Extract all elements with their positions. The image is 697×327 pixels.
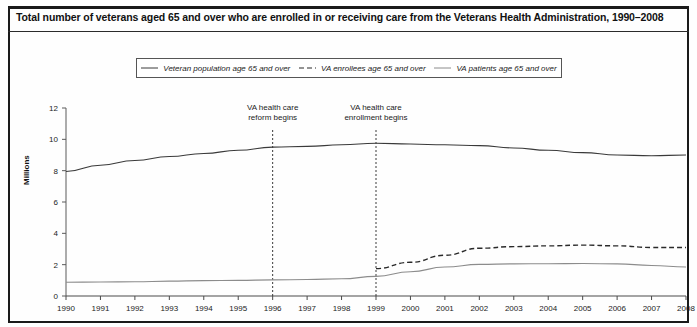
y-tick-label: 10	[49, 135, 58, 144]
x-tick-label: 2000	[402, 304, 420, 313]
annotation-label-line2: reform begins	[248, 113, 297, 122]
y-tick-label: 8	[54, 167, 59, 176]
y-tick-label: 6	[54, 198, 59, 207]
y-tick-label: 12	[49, 104, 58, 113]
x-tick-label: 2002	[470, 304, 488, 313]
x-tick-label: 1997	[298, 304, 316, 313]
x-tick-label: 2007	[643, 304, 661, 313]
x-tick-label: 1998	[333, 304, 351, 313]
annotation-label-line1: VA health care	[247, 103, 299, 112]
x-tick-label: 2005	[574, 304, 592, 313]
chart-figure: Total number of veterans aged 65 and ove…	[0, 0, 697, 327]
x-tick-label: 1995	[229, 304, 247, 313]
x-tick-label: 2001	[436, 304, 454, 313]
x-tick-label: 1994	[195, 304, 213, 313]
y-tick-label: 2	[54, 261, 59, 270]
y-tick-label: 4	[54, 229, 59, 238]
x-tick-label: 2008	[677, 304, 695, 313]
x-tick-label: 1996	[264, 304, 282, 313]
chart-plot-area: 0246810121990199119921993199419951996199…	[0, 0, 697, 327]
x-tick-label: 2003	[505, 304, 523, 313]
x-tick-label: 1992	[126, 304, 144, 313]
x-tick-label: 1999	[367, 304, 385, 313]
x-tick-label: 2006	[608, 304, 626, 313]
annotation-label-line1: VA health care	[350, 103, 402, 112]
x-tick-label: 1990	[57, 304, 75, 313]
y-tick-label: 0	[54, 292, 59, 301]
x-tick-label: 1991	[92, 304, 110, 313]
x-tick-label: 2004	[539, 304, 557, 313]
annotation-label-line2: enrollment begins	[344, 113, 407, 122]
x-tick-label: 1993	[160, 304, 178, 313]
